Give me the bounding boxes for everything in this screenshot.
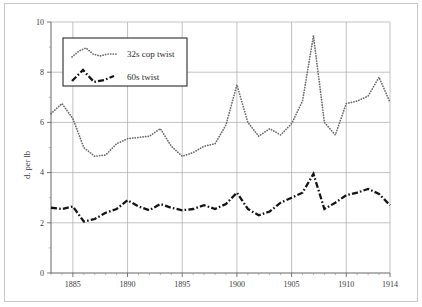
x-tick-label: 1890 bbox=[120, 280, 136, 289]
chart-legend[interactable]: 32s cop twist60s twist bbox=[63, 38, 187, 86]
legend-label-1: 32s cop twist bbox=[127, 49, 175, 59]
y-axis-title: d. per lb bbox=[22, 151, 32, 179]
legend-box bbox=[63, 38, 187, 86]
x-tick-label: 1885 bbox=[65, 280, 81, 289]
series-line-2 bbox=[51, 174, 390, 222]
x-tick-label: 1910 bbox=[338, 280, 354, 289]
chart-figure: 0246810 1885189018951900190519101914 d. … bbox=[0, 0, 422, 307]
y-tick-label: 4 bbox=[40, 168, 44, 177]
y-tick-label: 10 bbox=[36, 18, 44, 27]
y-tick-label: 0 bbox=[40, 269, 44, 278]
y-tick-label: 8 bbox=[40, 68, 44, 77]
y-tick-labels: 0246810 bbox=[36, 18, 44, 278]
y-tick-label: 6 bbox=[40, 118, 44, 127]
x-tick-labels: 1885189018951900190519101914 bbox=[65, 280, 398, 289]
x-tick-label: 1905 bbox=[284, 280, 300, 289]
line-chart: 0246810 1885189018951900190519101914 d. … bbox=[0, 0, 422, 307]
x-tick-label: 1895 bbox=[174, 280, 190, 289]
legend-label-2: 60s twist bbox=[127, 72, 160, 82]
y-tick-label: 2 bbox=[40, 219, 44, 228]
x-tick-label: 1900 bbox=[229, 280, 245, 289]
x-tick-label: 1914 bbox=[382, 280, 398, 289]
